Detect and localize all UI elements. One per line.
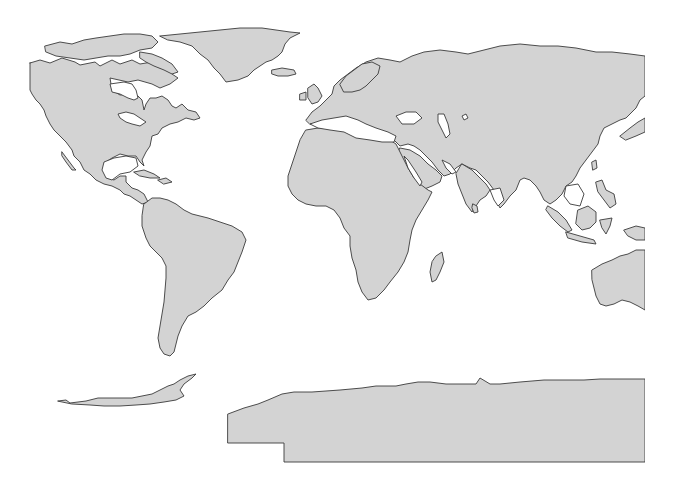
- landmass-borneo: [576, 206, 596, 230]
- landmass-australia: [592, 250, 645, 310]
- landmass-hispaniola: [158, 178, 172, 184]
- world-map-svg: [0, 0, 674, 478]
- water-south-china-sea: [564, 184, 584, 206]
- landmass-antarctica: [228, 378, 645, 462]
- landmass-great-britain: [308, 84, 322, 104]
- landmass-philippines: [596, 180, 616, 208]
- landmass-java: [566, 232, 596, 244]
- landmass-sumatra: [546, 206, 572, 232]
- landmass-taiwan: [592, 160, 597, 170]
- landmass-iceland: [272, 68, 296, 76]
- landmass-south-america: [142, 198, 246, 356]
- landmass-ireland: [300, 92, 306, 100]
- world-map: [0, 0, 674, 478]
- landmass-japan: [620, 118, 645, 140]
- landmass-sulawesi: [600, 218, 612, 234]
- landmass-cuba: [134, 170, 160, 178]
- landmass-antarctic-peninsula: [58, 374, 196, 406]
- landmass-new-guinea: [624, 226, 645, 240]
- landmass-north-america: [30, 58, 200, 204]
- landmass-sri-lanka: [472, 204, 478, 213]
- landmass-madagascar: [430, 252, 444, 282]
